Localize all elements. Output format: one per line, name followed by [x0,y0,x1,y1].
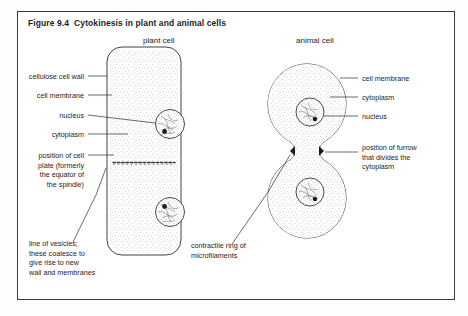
label-furrow: position of furrow that divides the cyto… [362,143,454,172]
label-animal-cell-membrane: cell membrane [362,74,454,84]
plant-nucleus-lower [156,198,185,227]
animal-nucleus-lower [296,178,324,206]
label-line-of-vesicles: line of vesicles; these coalesce to give… [29,239,139,277]
label-plant-cytoplasm: cytoplasm [18,130,84,140]
label-cellulose-cell-wall: cellulose cell wall [18,72,84,82]
plant-nucleus-upper [156,110,185,139]
label-plant-cell-membrane: cell membrane [18,91,84,101]
label-animal-cytoplasm: cytoplasm [362,93,454,103]
label-plant-nucleus: nucleus [18,111,84,121]
label-animal-nucleus: nucleus [362,112,454,122]
figure-panel: Figure 9.4 Cytokinesis in plant and anim… [17,11,455,300]
label-contractile-ring: contractile ring of microfilaments [191,241,295,260]
label-cell-plate: position of cell plate (formerly the equ… [18,151,84,189]
animal-nucleus-upper [296,98,324,126]
plant-cell-drawing [107,47,185,255]
